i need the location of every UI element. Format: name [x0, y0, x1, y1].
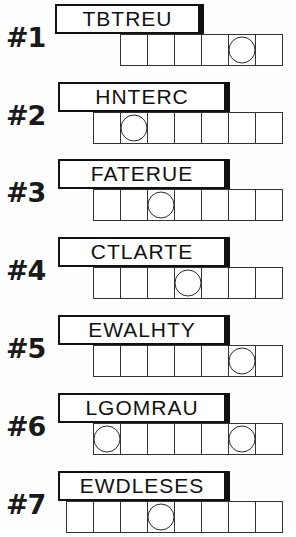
puzzle-row: #1TBTREU — [0, 4, 296, 76]
scrambled-word-text: LGOMRAU — [60, 396, 224, 420]
scrambled-word-banner: FATERUE — [58, 159, 226, 189]
answer-box[interactable] — [147, 189, 175, 221]
puzzle-number-label: #5 — [6, 335, 54, 362]
answer-box[interactable] — [228, 501, 256, 533]
scrambled-word-text: EWALHTY — [60, 318, 224, 342]
circle-marker-icon — [148, 192, 175, 219]
scrambled-word-text: CTLARTE — [60, 240, 224, 264]
scrambled-word-text: HNTERC — [60, 85, 224, 109]
scrambled-word-banner: TBTREU — [55, 4, 200, 34]
answer-box[interactable] — [228, 189, 256, 221]
answer-box[interactable] — [147, 423, 175, 455]
answer-box[interactable] — [93, 423, 121, 455]
answer-box[interactable] — [174, 34, 202, 66]
answer-box[interactable] — [255, 189, 283, 221]
puzzle-number-label: #4 — [6, 257, 54, 284]
answer-box[interactable] — [228, 112, 256, 144]
circle-marker-icon — [94, 426, 121, 453]
answer-box[interactable] — [120, 501, 148, 533]
puzzle-number-label: #6 — [6, 413, 54, 440]
answer-box[interactable] — [201, 34, 229, 66]
scrambled-word-banner: HNTERC — [58, 82, 226, 112]
circle-marker-icon — [229, 37, 256, 64]
answer-box[interactable] — [120, 267, 148, 299]
scrambled-word-banner: LGOMRAU — [58, 393, 226, 423]
answer-box[interactable] — [174, 267, 202, 299]
answer-box[interactable] — [120, 423, 148, 455]
circle-marker-icon — [229, 426, 256, 453]
answer-box-strip — [93, 112, 283, 144]
answer-box[interactable] — [255, 112, 283, 144]
answer-box[interactable] — [120, 112, 148, 144]
answer-box[interactable] — [93, 345, 121, 377]
scrambled-word-text: EWDLESES — [60, 474, 224, 498]
answer-box[interactable] — [147, 34, 175, 66]
answer-box[interactable] — [228, 423, 256, 455]
puzzle-number-label: #1 — [6, 24, 54, 51]
puzzle-row: #5EWALHTY — [0, 315, 296, 387]
scrambled-word-text: TBTREU — [57, 7, 198, 31]
answer-box-strip — [93, 345, 283, 377]
answer-box[interactable] — [201, 267, 229, 299]
answer-box[interactable] — [93, 267, 121, 299]
puzzle-row: #4CTLARTE — [0, 237, 296, 309]
scrambled-word-text: FATERUE — [60, 162, 224, 186]
answer-box[interactable] — [174, 501, 202, 533]
answer-box[interactable] — [201, 345, 229, 377]
answer-box[interactable] — [66, 501, 94, 533]
answer-box[interactable] — [147, 345, 175, 377]
answer-box[interactable] — [228, 34, 256, 66]
scrambled-word-banner: EWALHTY — [58, 315, 226, 345]
answer-box[interactable] — [255, 34, 283, 66]
puzzle-row: #3FATERUE — [0, 159, 296, 231]
circle-marker-icon — [121, 115, 148, 142]
answer-box[interactable] — [147, 267, 175, 299]
puzzle-number-label: #2 — [6, 102, 54, 129]
answer-box[interactable] — [255, 267, 283, 299]
answer-box[interactable] — [174, 345, 202, 377]
answer-box[interactable] — [201, 501, 229, 533]
answer-box[interactable] — [201, 423, 229, 455]
answer-box[interactable] — [174, 189, 202, 221]
answer-box-strip — [93, 189, 283, 221]
answer-box[interactable] — [147, 112, 175, 144]
circle-marker-icon — [175, 270, 202, 297]
answer-box[interactable] — [174, 112, 202, 144]
circle-marker-icon — [148, 504, 175, 531]
answer-box[interactable] — [228, 345, 256, 377]
answer-box[interactable] — [120, 345, 148, 377]
puzzle-row: #7EWDLESES — [0, 471, 296, 537]
answer-box[interactable] — [201, 189, 229, 221]
answer-box[interactable] — [255, 501, 283, 533]
puzzle-number-label: #3 — [6, 179, 54, 206]
answer-box[interactable] — [255, 423, 283, 455]
answer-box[interactable] — [228, 267, 256, 299]
puzzle-row: #2HNTERC — [0, 82, 296, 154]
circle-marker-icon — [229, 348, 256, 375]
scrambled-word-banner: EWDLESES — [58, 471, 226, 501]
answer-box-strip — [120, 34, 283, 66]
answer-box-strip — [93, 267, 283, 299]
answer-box[interactable] — [93, 501, 121, 533]
answer-box[interactable] — [147, 501, 175, 533]
scrambled-word-banner: CTLARTE — [58, 237, 226, 267]
puzzle-row: #6LGOMRAU — [0, 393, 296, 465]
answer-box[interactable] — [255, 345, 283, 377]
answer-box-strip — [93, 423, 283, 455]
answer-box[interactable] — [93, 189, 121, 221]
answer-box[interactable] — [93, 112, 121, 144]
puzzle-number-label: #7 — [6, 491, 54, 518]
answer-box[interactable] — [120, 189, 148, 221]
answer-box[interactable] — [120, 34, 148, 66]
answer-box[interactable] — [201, 112, 229, 144]
answer-box-strip — [66, 501, 283, 533]
answer-box[interactable] — [174, 423, 202, 455]
